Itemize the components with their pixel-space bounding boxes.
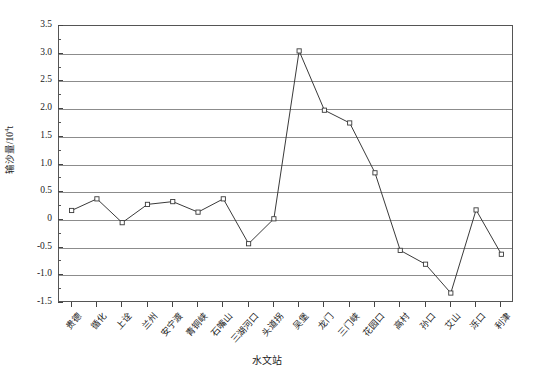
data-point-marker [70, 208, 74, 212]
x-tick-mark [323, 302, 324, 307]
y-tick-minor [58, 39, 61, 40]
data-point-marker [423, 262, 427, 266]
data-point-marker [120, 221, 124, 225]
x-tick-mark [298, 302, 299, 307]
y-tick-label: -1.0 [26, 268, 52, 278]
data-point-marker [196, 210, 200, 214]
x-tick-mark [374, 302, 375, 307]
x-tick-mark [197, 302, 198, 307]
plot-area [58, 25, 513, 302]
y-tick-mark [58, 247, 63, 248]
y-tick-minor [58, 122, 61, 123]
y-tick-label: 3.5 [26, 19, 52, 29]
y-tick-mark [58, 274, 63, 275]
data-point-marker [145, 202, 149, 206]
x-tick-mark [450, 302, 451, 307]
y-tick-label: -0.5 [26, 241, 52, 251]
data-point-marker [322, 108, 326, 112]
x-tick-mark [425, 302, 426, 307]
y-tick-minor [58, 94, 61, 95]
x-tick-mark [222, 302, 223, 307]
data-point-marker [499, 252, 503, 256]
data-point-marker [297, 49, 301, 53]
y-tick-label: 0.5 [26, 185, 52, 195]
y-tick-minor [58, 288, 61, 289]
y-tick-mark [58, 164, 63, 165]
y-tick-mark [58, 219, 63, 220]
data-point-marker [171, 200, 175, 204]
y-tick-mark [58, 302, 63, 303]
x-tick-mark [121, 302, 122, 307]
series-line [72, 51, 502, 293]
y-tick-label: 0 [26, 213, 52, 223]
y-axis-title-unit: t [5, 126, 15, 129]
x-tick-mark [172, 302, 173, 307]
x-tick-mark [500, 302, 501, 307]
data-point-marker [272, 217, 276, 221]
y-tick-minor [58, 233, 61, 234]
y-tick-label: 1.0 [26, 158, 52, 168]
y-tick-minor [58, 150, 61, 151]
data-point-marker [246, 242, 250, 246]
y-tick-label: 2.0 [26, 102, 52, 112]
x-tick-mark [147, 302, 148, 307]
y-tick-minor [58, 260, 61, 261]
data-point-marker [221, 197, 225, 201]
y-axis-title-exponent: 4 [3, 129, 11, 133]
y-tick-minor [58, 205, 61, 206]
y-tick-label: 1.5 [26, 130, 52, 140]
y-tick-mark [58, 53, 63, 54]
x-axis-title: 水文站 [0, 352, 533, 367]
y-tick-label: 3.0 [26, 47, 52, 57]
x-tick-mark [399, 302, 400, 307]
y-tick-minor [58, 177, 61, 178]
y-tick-mark [58, 108, 63, 109]
y-tick-minor [58, 67, 61, 68]
x-tick-mark [273, 302, 274, 307]
x-tick-mark [475, 302, 476, 307]
y-axis-title: 输沙量/104t [2, 105, 16, 195]
y-tick-mark [58, 25, 63, 26]
y-tick-mark [58, 80, 63, 81]
data-point-marker [348, 121, 352, 125]
x-tick-mark [71, 302, 72, 307]
x-tick-mark [96, 302, 97, 307]
y-axis-title-text: 输沙量/10 [5, 132, 15, 174]
data-point-marker [474, 208, 478, 212]
y-tick-label: -1.5 [26, 296, 52, 306]
y-tick-label: 2.5 [26, 74, 52, 84]
data-series [59, 26, 514, 303]
x-tick-mark [248, 302, 249, 307]
y-tick-mark [58, 136, 63, 137]
data-point-marker [95, 197, 99, 201]
y-tick-mark [58, 191, 63, 192]
chart-figure: 输沙量/104t 3.53.02.52.01.51.00.50-0.5-1.0-… [0, 0, 533, 379]
data-point-marker [449, 291, 453, 295]
data-point-marker [398, 248, 402, 252]
series-markers [70, 49, 504, 295]
x-tick-mark [349, 302, 350, 307]
data-point-marker [373, 171, 377, 175]
